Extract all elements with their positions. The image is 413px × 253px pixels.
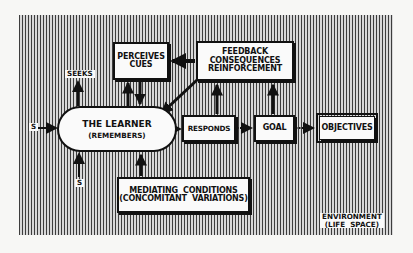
label-stimulus-bottom: S <box>75 179 84 187</box>
node-goal-label: GOAL <box>263 124 287 132</box>
node-mediating-conditions: MEDIATING CONDITIONS (CONCOMITANT VARIAT… <box>117 177 250 213</box>
node-feedback-line3: REINFORCEMENT <box>208 65 282 73</box>
node-objectives: OBJECTIVES <box>319 116 375 140</box>
node-learner-subtitle: (REMEMBERS) <box>88 131 145 140</box>
node-goal: GOAL <box>254 115 295 142</box>
node-mediating-line2: (CONCOMITANT VARIATIONS) <box>119 195 247 203</box>
node-perceives-cues: PERCEIVES CUES <box>113 42 169 80</box>
label-environment: ENVIRONMENT (LIFE SPACE) <box>320 213 384 228</box>
node-responds: RESPONDS <box>182 115 236 142</box>
node-learner-title: THE LEARNER <box>82 119 151 129</box>
node-responds-label: RESPONDS <box>188 125 231 133</box>
node-learner: THE LEARNER (REMEMBERS) <box>57 106 177 152</box>
node-objectives-label: OBJECTIVES <box>321 124 372 132</box>
edge-feedback-to-learner <box>162 80 197 113</box>
node-feedback: FEEDBACK CONSEQUENCES REINFORCEMENT <box>196 41 294 81</box>
label-environment-line2: (LIFE SPACE) <box>325 221 379 229</box>
label-seeks: SEEKS <box>65 70 95 78</box>
label-stimulus-left: S <box>29 123 38 131</box>
node-perceives-line2: CUES <box>130 61 153 69</box>
